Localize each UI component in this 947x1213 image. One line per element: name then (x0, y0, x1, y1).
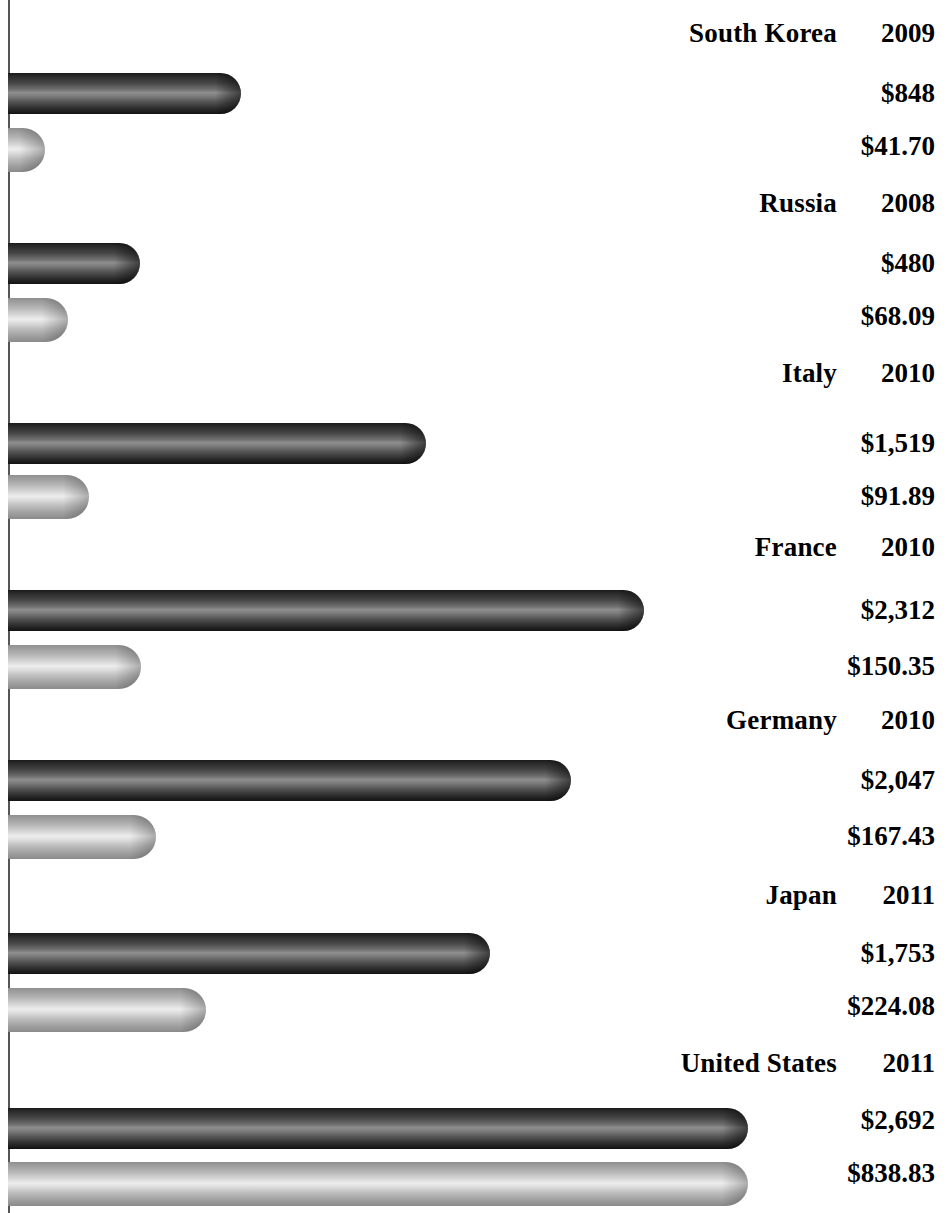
bar-secondary (8, 988, 206, 1032)
value-label-secondary: $91.89 (861, 481, 935, 512)
bar-secondary (8, 298, 68, 342)
category-label-row: France2010 (755, 532, 935, 563)
category-year: 2011 (863, 880, 935, 911)
bar-secondary (8, 128, 45, 172)
bar-primary (8, 243, 140, 284)
category-label-row: Italy2010 (782, 358, 935, 389)
bar-chart: South Korea2009$848$41.70Russia2008$480$… (0, 0, 947, 1213)
category-name: Japan (765, 880, 837, 911)
value-label-primary: $2,312 (861, 595, 935, 626)
category-name: Russia (759, 188, 837, 219)
value-label-secondary: $150.35 (847, 651, 935, 682)
category-year: 2009 (863, 18, 935, 49)
category-year: 2008 (863, 188, 935, 219)
category-label-row: Japan2011 (765, 880, 935, 911)
category-name: France (755, 532, 837, 563)
category-name: United States (681, 1048, 837, 1079)
value-label-secondary: $838.83 (847, 1158, 935, 1189)
value-label-primary: $848 (881, 78, 935, 109)
value-label-primary: $480 (881, 248, 935, 279)
category-label-row: South Korea2009 (689, 18, 935, 49)
value-label-primary: $1,519 (861, 428, 935, 459)
category-name: South Korea (689, 18, 837, 49)
value-label-secondary: $68.09 (861, 301, 935, 332)
bar-primary (8, 423, 426, 464)
value-label-secondary: $41.70 (861, 131, 935, 162)
value-label-primary: $2,692 (861, 1105, 935, 1136)
bar-secondary (8, 475, 89, 519)
bar-secondary (8, 645, 141, 689)
value-label-secondary: $224.08 (847, 991, 935, 1022)
category-label-row: Germany2010 (726, 705, 935, 736)
category-year: 2010 (863, 358, 935, 389)
bar-secondary (8, 815, 156, 859)
value-label-primary: $2,047 (861, 765, 935, 796)
value-label-primary: $1,753 (861, 938, 935, 969)
bar-primary (8, 760, 571, 801)
value-label-secondary: $167.43 (847, 821, 935, 852)
category-label-row: Russia2008 (759, 188, 935, 219)
category-year: 2011 (863, 1048, 935, 1079)
category-label-row: United States2011 (681, 1048, 935, 1079)
category-name: Italy (782, 358, 837, 389)
category-year: 2010 (863, 705, 935, 736)
bar-primary (8, 590, 644, 631)
category-year: 2010 (863, 532, 935, 563)
bar-primary (8, 933, 490, 974)
bar-primary (8, 73, 241, 114)
category-name: Germany (726, 705, 837, 736)
label-column: South Korea2009$848$41.70Russia2008$480$… (617, 0, 947, 1213)
